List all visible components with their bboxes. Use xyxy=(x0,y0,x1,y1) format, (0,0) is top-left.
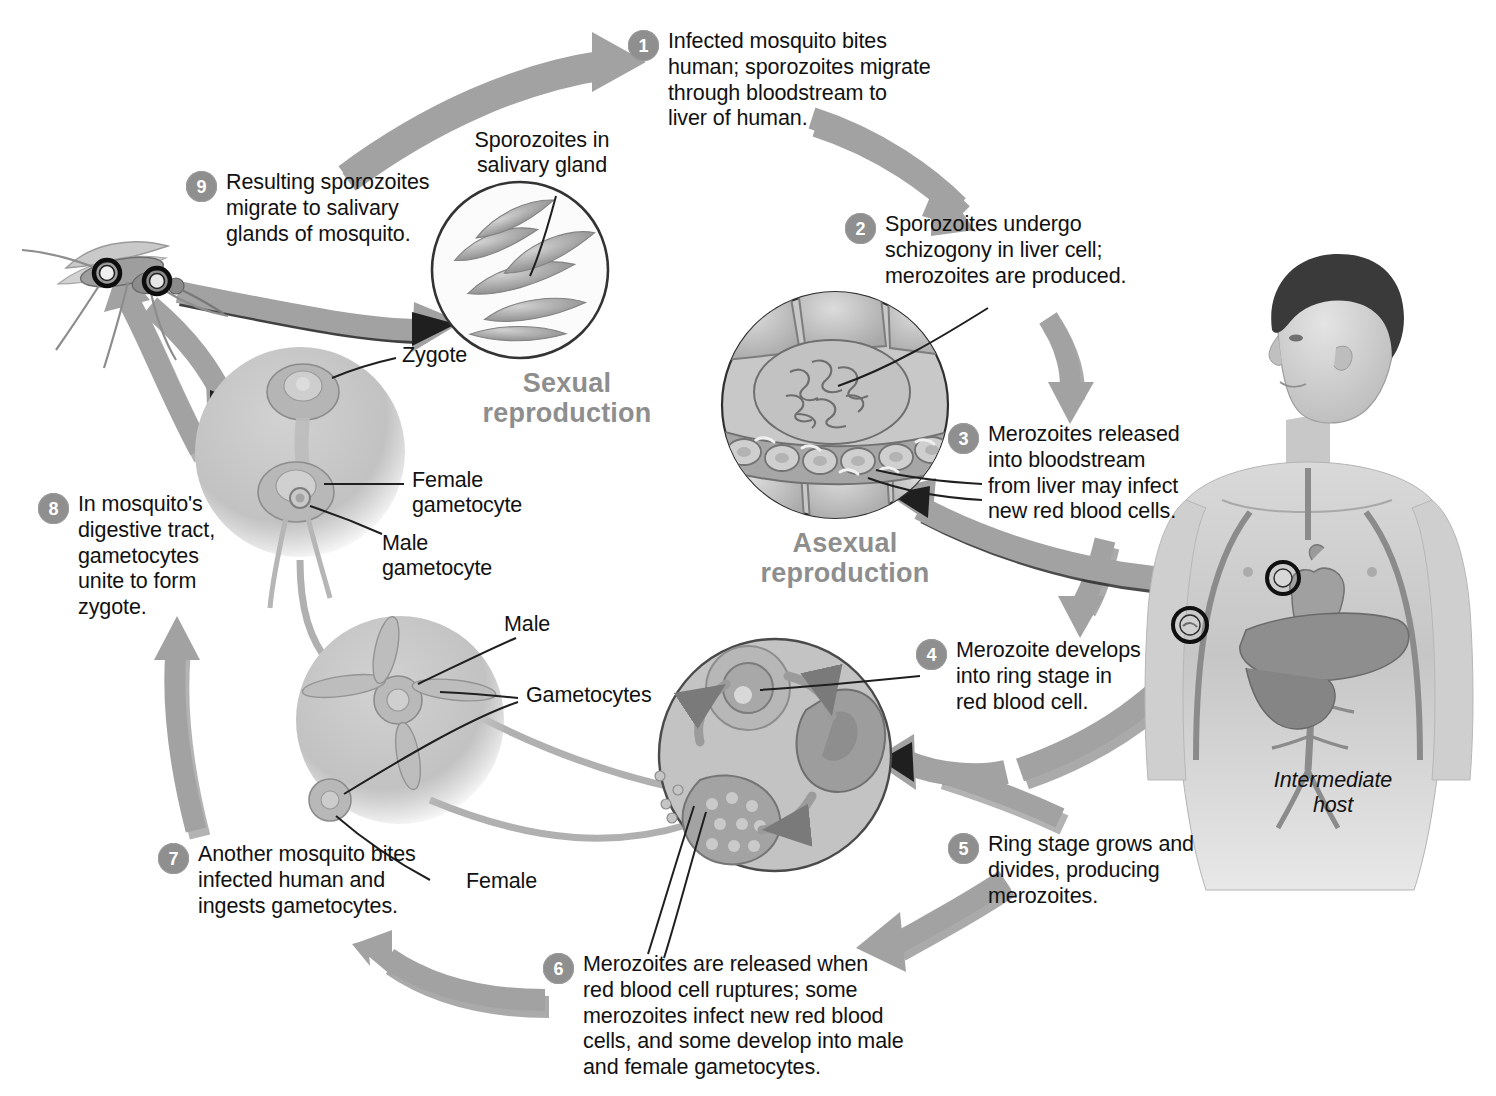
step-1-text: Infected mosquito bites human; sporozoit… xyxy=(668,29,931,132)
step-6-text: Merozoites are released when red blood c… xyxy=(583,952,904,1081)
step-9-callout: 9 Resulting sporozoites migrate to saliv… xyxy=(186,170,446,247)
step-7-badge: 7 xyxy=(158,843,189,874)
step-1-badge: 1 xyxy=(628,30,659,61)
label-zygote: Zygote xyxy=(402,343,467,368)
label-sporozoites-salivary-gland: Sporozoites in salivary gland xyxy=(452,128,632,179)
malaria-life-cycle-diagram: 1 Infected mosquito bites human; sporozo… xyxy=(0,0,1496,1096)
step-6-badge: 6 xyxy=(543,953,574,984)
step-7-callout: 7 Another mosquito bites infected human … xyxy=(158,842,498,919)
step-4-text: Merozoite develops into ring stage in re… xyxy=(956,638,1141,715)
step-3-callout: 3 Merozoites released into bloodstream f… xyxy=(948,422,1218,525)
step-9-text: Resulting sporozoites migrate to salivar… xyxy=(226,170,429,247)
sexual-reproduction-heading: Sexual reproduction xyxy=(452,368,682,428)
step-5-text: Ring stage grows and divides, producing … xyxy=(988,832,1194,909)
label-intermediate-host: Intermediate host xyxy=(1238,768,1428,819)
step-4-callout: 4 Merozoite develops into ring stage in … xyxy=(916,638,1176,715)
step-6-callout: 6 Merozoites are released when red blood… xyxy=(543,952,963,1081)
asexual-reproduction-heading: Asexual reproduction xyxy=(730,528,960,588)
label-female: Female xyxy=(466,869,537,894)
label-male-gametocyte: Male gametocyte xyxy=(382,531,492,582)
step-3-text: Merozoites released into bloodstream fro… xyxy=(988,422,1180,525)
step-1-callout: 1 Infected mosquito bites human; sporozo… xyxy=(628,29,958,132)
label-gametocytes: Gametocytes xyxy=(526,683,652,708)
step-5-badge: 5 xyxy=(948,833,979,864)
step-8-text: In mosquito's digestive tract, gametocyt… xyxy=(78,492,215,621)
red-blood-cell-panel xyxy=(648,639,920,958)
step-2-badge: 2 xyxy=(845,213,876,244)
step-2-text: Sporozoites undergo schizogony in liver … xyxy=(885,212,1126,289)
step-4-badge: 4 xyxy=(916,639,947,670)
label-male: Male xyxy=(504,612,550,637)
step-8-callout: 8 In mosquito's digestive tract, gametoc… xyxy=(38,492,218,621)
step-3-badge: 3 xyxy=(948,423,979,454)
step-5-callout: 5 Ring stage grows and divides, producin… xyxy=(948,832,1218,909)
step-7-text: Another mosquito bites infected human an… xyxy=(198,842,416,919)
step-9-badge: 9 xyxy=(186,171,217,202)
label-female-gametocyte: Female gametocyte xyxy=(412,468,522,519)
step-8-badge: 8 xyxy=(38,493,69,524)
step-2-callout: 2 Sporozoites undergo schizogony in live… xyxy=(845,212,1175,289)
salivary-gland-panel xyxy=(432,182,608,358)
gametocytes-panel xyxy=(296,614,518,880)
